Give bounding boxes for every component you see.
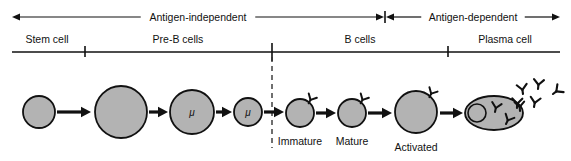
antibody-arm-right — [538, 80, 544, 86]
pre-b-early-outline — [95, 86, 147, 138]
arrow-mu-large-to-mu-small — [216, 107, 232, 117]
mature-b-cell: Mature — [336, 93, 369, 147]
stage-axis: Stem cellPre-B cellsB cellsPlasma cell — [12, 33, 560, 61]
pre-b-mu-large-mu-marker: μ — [188, 107, 195, 118]
secreted-antibody-0 — [517, 84, 528, 95]
phase-label-antigen-dependent: Antigen-dependent — [429, 11, 518, 23]
b-cell-development-figure: Antigen-independentAntigen-dependent Ste… — [0, 0, 571, 161]
phase-antigen-dependent: Antigen-dependent — [386, 11, 560, 23]
stage-label-pre-b-cells: Pre-B cells — [153, 33, 204, 45]
arrow-immature-to-mature — [316, 108, 336, 118]
pre-b-mu-large: μ — [170, 90, 214, 134]
stem-cell-body-outline — [23, 96, 55, 128]
arrow-mature-to-activated — [368, 108, 392, 118]
immature-b-cell-label: Immature — [278, 135, 323, 147]
plasma-cell-nucleus — [468, 104, 486, 122]
phase-arrowhead-left — [12, 13, 20, 20]
phase-label-antigen-independent: Antigen-independent — [150, 11, 247, 23]
phase-arrowhead-right — [552, 13, 560, 20]
arrow-activated-to-plasma-head — [453, 108, 463, 118]
arrow-stem-to-preb — [57, 107, 91, 117]
arrow-mature-to-activated-head — [382, 108, 392, 118]
antibody-arm-right — [522, 84, 528, 90]
immature-b-cell: Immature — [278, 93, 323, 147]
arrow-mu-large-to-mu-small-head — [222, 107, 232, 117]
pre-b-mu-small: μ — [234, 98, 262, 126]
activated-b-cell: Activated — [394, 87, 437, 153]
stem-cell-body — [23, 96, 55, 128]
arrow-preb-to-mu-large-head — [158, 107, 168, 117]
activated-b-cell-label: Activated — [394, 141, 437, 153]
plasma-cell-group — [465, 79, 564, 130]
arrow-mu-small-to-immature — [264, 107, 284, 117]
arrow-preb-to-mu-large — [149, 107, 168, 117]
antibody-arm-right — [431, 89, 437, 95]
arrow-stem-to-preb-head — [81, 107, 91, 117]
antibody-arm-right — [311, 96, 317, 102]
pre-b-mu-small-mu-marker: μ — [244, 107, 251, 118]
arrow-activated-to-plasma — [440, 108, 463, 118]
arrow-mu-small-to-immature-head — [274, 107, 284, 117]
antibody-arm-right — [363, 96, 369, 102]
antibody-arm-right — [535, 98, 541, 104]
phase-antigen-independent: Antigen-independent — [12, 11, 384, 23]
stage-label-b-cells: B cells — [345, 33, 376, 45]
antibody-arm-left — [553, 84, 560, 91]
stage-label-plasma-cell: Plasma cell — [478, 33, 532, 45]
secreted-antibody-2 — [550, 84, 564, 98]
cell-series: μμImmatureMatureActivated — [23, 86, 438, 153]
mature-b-cell-label: Mature — [336, 135, 369, 147]
diagram-canvas: Antigen-independentAntigen-dependent Ste… — [0, 0, 571, 161]
secreted-antibody-1 — [533, 79, 544, 89]
stage-label-stem-cell: Stem cell — [25, 33, 68, 45]
phase-arrowhead-right — [376, 13, 384, 20]
activated-b-cell-outline — [395, 91, 437, 133]
pre-b-early — [95, 86, 147, 138]
phase-arrowhead-left — [386, 13, 394, 20]
secreted-antibody-4 — [529, 97, 540, 108]
arrow-immature-to-mature-head — [326, 108, 336, 118]
phase-axis: Antigen-independentAntigen-dependent — [12, 11, 560, 23]
